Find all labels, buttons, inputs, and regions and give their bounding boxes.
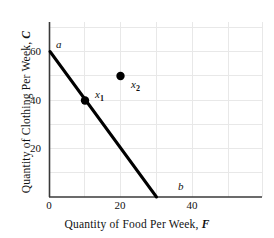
x-tick-label-20: 20 [108,199,132,211]
point-label-x1: x1 [95,88,104,103]
endpoint-label-b: b [178,180,184,192]
y-axis-title: Quantity of Clothing Per Week, C [20,22,32,202]
x-tick-label-0: 0 [37,199,61,211]
data-point-x2 [116,72,124,80]
vertical-gridlines [85,22,263,197]
y-axis-title-text: Quantity of Clothing Per Week, [20,39,32,194]
x-axis-title: Quantity of Food Per Week, F [0,218,274,230]
point-label-x2-sub: 2 [136,84,140,93]
x-axis-title-symbol: F [202,218,210,230]
point-label-x2: x2 [131,78,140,93]
budget-constraint-chart: 60 40 20 0 20 40 a b x1 x2 Quantity of F… [0,0,274,238]
endpoint-label-a: a [56,38,62,50]
x-tick-label-40: 40 [180,199,204,211]
data-point-x1 [81,96,89,104]
y-axis-title-symbol: C [20,31,32,39]
x-axis-title-text: Quantity of Food Per Week, [64,218,201,230]
point-label-x1-sub: 1 [100,94,104,103]
